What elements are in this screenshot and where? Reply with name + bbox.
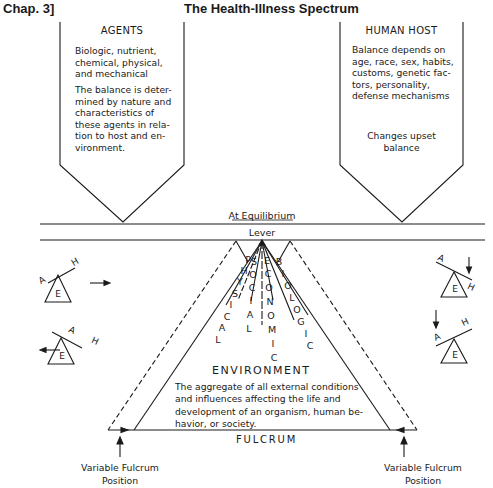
host-text-line: defense mechanisms [352, 90, 454, 102]
host-changes-note: Changes upset balance [340, 130, 463, 153]
host-balance-factors: Balance depends on age, race, sex, habit… [352, 44, 454, 102]
variable-fulcrum-left: Variable Fulcrum Position [45, 461, 195, 487]
environment-text-line: development of an organism, human be- [175, 406, 363, 418]
host-text-line: age, race, sex, habits, [352, 56, 454, 68]
host-text-line: balance [340, 142, 463, 154]
fulcrum-label: FULCRUM [236, 434, 297, 445]
host-text-line: customs, genetic fac- [352, 67, 454, 79]
mini-lever-3-env: E [452, 284, 458, 294]
agents-text-line: Biologic, nutrient, [75, 45, 163, 57]
environment-title: ENVIRONMENT [212, 364, 310, 377]
environment-text-line: havior, or society. [175, 418, 363, 430]
host-text-line: tors, personality, [352, 79, 454, 91]
environment-definition: The aggregate of all external conditions… [175, 381, 363, 431]
variable-fulcrum-right: Variable Fulcrum Position [348, 461, 493, 487]
host-title: HUMAN HOST [340, 25, 463, 36]
mini-lever-1-env: E [55, 289, 61, 299]
agents-text-line: and mechanical [75, 68, 163, 80]
lever-label: Lever [212, 227, 312, 238]
agents-types: Biologic, nutrient, chemical, physical, … [75, 45, 163, 80]
agents-text-line: tion to host and en- [75, 130, 172, 142]
host-text-line: Balance depends on [352, 44, 454, 56]
agents-text-line: these agents in rela- [75, 119, 172, 131]
agents-text-line: mined by nature and [75, 96, 172, 108]
environment-text-line: The aggregate of all external conditions [175, 381, 363, 393]
agents-text-line: chemical, physical, [75, 57, 163, 69]
agents-text-line: characteristics of [75, 107, 172, 119]
mini-lever-2-env: E [59, 351, 65, 361]
environment-text-line: and influences affecting the life and [175, 393, 363, 405]
agents-title: AGENTS [60, 25, 184, 36]
mini-lever-4-env: E [452, 350, 458, 360]
equilibrium-label: At Equilibrium [212, 210, 312, 221]
agents-text-line: The balance is deter- [75, 84, 172, 96]
agents-balance-description: The balance is deter- mined by nature an… [75, 84, 172, 154]
agents-text-line: vironment. [75, 142, 172, 154]
host-text-line: Changes upset [340, 130, 463, 142]
